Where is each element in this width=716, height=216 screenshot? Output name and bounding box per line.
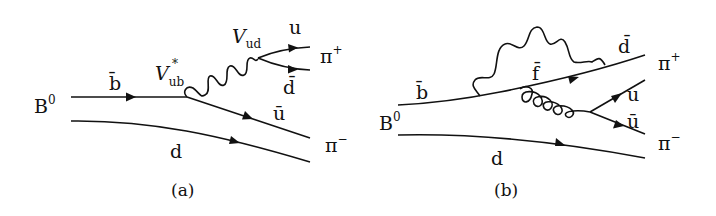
dbar-label: d̄ — [283, 75, 296, 98]
feynman-diagrams: B0 b̄ Vub * Vud u d̄ ū d π+ π− (a) B0 b̄… — [0, 0, 716, 216]
d-quark-line-b — [398, 135, 645, 158]
caption-b: (b) — [494, 180, 518, 200]
bbar-arrow-icon — [126, 93, 136, 102]
caption-a: (a) — [171, 180, 194, 200]
dbar-quark-line — [258, 58, 310, 70]
b0-label: B0 — [34, 93, 56, 117]
pi-plus-label-b: π+ — [658, 50, 681, 74]
fbar-label: f̄ — [532, 61, 541, 84]
d-label: d — [170, 140, 182, 162]
ubar-label-b: ū — [627, 110, 639, 132]
bbar-label: b̄ — [109, 71, 121, 94]
fbar-arrow-icon — [568, 76, 579, 84]
diagram-a: B0 b̄ Vub * Vud u d̄ ū d π+ π− (a) — [34, 16, 348, 200]
w-boson-line — [185, 58, 258, 97]
gluon-line — [520, 87, 590, 118]
u-label-b: u — [627, 83, 639, 105]
pi-minus-label: π− — [325, 132, 348, 156]
b0-label-b: B0 — [379, 110, 401, 134]
vub-label: Vub — [155, 62, 184, 89]
u-arrow-icon — [288, 44, 298, 53]
w-boson-loop — [473, 27, 605, 96]
bbar-label-b: b̄ — [416, 80, 428, 103]
vub-star: * — [172, 57, 178, 71]
u-quark-line — [258, 47, 310, 58]
pi-minus-label-b: π− — [658, 130, 681, 154]
dbar-arrow-icon — [288, 65, 298, 74]
d-arrow-icon — [229, 136, 240, 144]
d-arrow-icon-b — [555, 138, 566, 146]
ubar-arrow-icon — [242, 111, 253, 120]
d-quark-line — [71, 121, 310, 162]
ubar-label: ū — [273, 102, 285, 124]
d-label-b: d — [491, 147, 503, 169]
u-label: u — [289, 16, 301, 38]
pi-plus-label: π+ — [320, 43, 343, 67]
diagram-b: B0 b̄ f̄ d̄ u ū d π+ π− (b) — [379, 27, 681, 200]
dbar-label-b: d̄ — [618, 34, 631, 57]
u-arrow-icon-b — [611, 93, 622, 103]
vud-label: Vud — [232, 25, 261, 51]
